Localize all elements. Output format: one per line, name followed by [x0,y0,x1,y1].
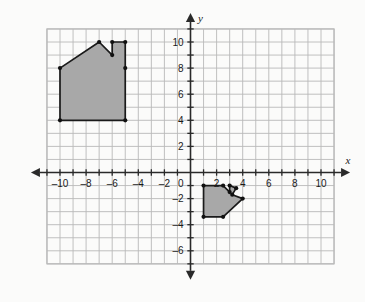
vertex-dot [123,66,127,70]
vertex-dot [110,53,114,57]
vertex-dot [201,215,205,219]
x-tick-label: 10 [315,178,327,189]
coordinate-plane-svg: –10–8–6–4–2246810108642–2–4–60 xy [0,0,365,302]
vertex-dot [201,183,205,187]
x-tick-label: –10 [52,178,69,189]
vertex-dot [123,40,127,44]
x-tick-label: –8 [81,178,93,189]
y-tick-label: –2 [172,193,184,204]
vertex-dot [228,183,232,187]
vertex-dot [221,183,225,187]
vertex-dot [234,186,238,190]
coordinate-plane-figure: –10–8–6–4–2246810108642–2–4–60 xy [0,0,365,302]
vertex-dot [221,215,225,219]
vertex-dot [123,118,127,122]
y-tick-label: 6 [178,89,184,100]
x-tick-label: 2 [214,178,220,189]
vertex-dot [230,193,234,197]
x-axis-label: x [345,154,351,166]
y-tick-label: 2 [178,141,184,152]
x-tick-label: 8 [292,178,298,189]
vertex-dot [58,66,62,70]
origin-label: 0 [178,178,184,189]
vertex-dot [241,197,245,201]
y-tick-label: –4 [172,219,184,230]
x-tick-label: 4 [240,178,246,189]
x-tick-label: 6 [266,178,272,189]
y-axis-label: y [197,12,203,24]
x-tick-label: –4 [133,178,145,189]
vertex-dot [58,118,62,122]
y-tick-label: 10 [172,37,184,48]
vertex-dot [110,40,114,44]
y-tick-label: –6 [172,245,184,256]
y-tick-label: 8 [178,63,184,74]
x-tick-label: –6 [107,178,119,189]
y-tick-label: 4 [178,115,184,126]
x-tick-label: –2 [159,178,171,189]
vertex-dot [97,40,101,44]
